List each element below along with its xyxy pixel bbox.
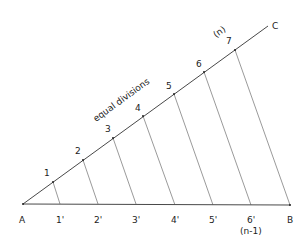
parallel-line-1 — [53, 182, 60, 204]
lower-label-5: 5' — [209, 215, 217, 225]
lower-label-2: 2' — [94, 215, 102, 225]
upper-label-4: 4 — [135, 103, 141, 113]
lower-label-n-minus-1: (n-1) — [240, 226, 262, 236]
point-label-c: C — [272, 21, 278, 31]
lower-label-3: 3' — [132, 215, 140, 225]
parallel-line-6 — [204, 72, 251, 205]
line-ab — [23, 204, 290, 205]
line-ac — [23, 26, 268, 204]
upper-label-6: 6 — [196, 59, 202, 69]
upper-label-2: 2 — [75, 146, 81, 156]
parallel-line-3 — [113, 138, 136, 204]
parallel-line-7 — [235, 50, 290, 205]
upper-label-1: 1 — [44, 168, 50, 178]
upper-label-3: 3 — [105, 124, 111, 134]
upper-label-5: 5 — [166, 81, 172, 91]
division-ticks — [22, 49, 291, 206]
lower-label-6: 6' — [247, 215, 255, 225]
equal-division-diagram: A B C 1 2 3 4 5 6 7 (n) equal divisions … — [0, 0, 307, 246]
parallel-line-5 — [174, 94, 213, 205]
point-label-a: A — [19, 215, 26, 225]
lower-label-1: 1' — [56, 215, 64, 225]
parallel-line-2 — [83, 160, 98, 204]
point-label-b: B — [287, 215, 293, 225]
upper-label-7: 7 — [226, 36, 232, 46]
parallel-line-4 — [143, 116, 175, 205]
lower-label-4: 4' — [171, 215, 179, 225]
